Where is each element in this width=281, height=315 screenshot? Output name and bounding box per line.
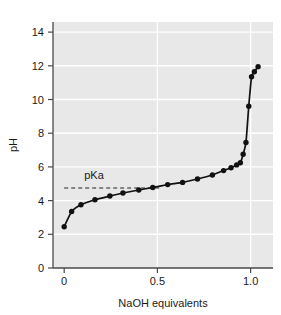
data-point-7 — [150, 185, 155, 190]
x-tick-label-0: 0 — [61, 275, 67, 287]
data-point-4 — [107, 193, 112, 198]
data-point-0 — [61, 224, 66, 229]
y-axis-title: pH — [7, 138, 19, 152]
plot-area-background — [53, 22, 273, 268]
data-point-10 — [195, 176, 200, 181]
data-point-11 — [210, 172, 215, 177]
data-point-9 — [180, 180, 185, 185]
data-point-12 — [221, 168, 226, 173]
data-point-17 — [243, 140, 248, 145]
data-point-18 — [246, 104, 251, 109]
data-point-8 — [165, 182, 170, 187]
y-tick-label-4: 8 — [38, 127, 44, 139]
y-tick-label-3: 6 — [38, 161, 44, 173]
pka-label: pKa — [84, 169, 104, 181]
y-tick-label-0: 0 — [38, 262, 44, 274]
data-point-2 — [78, 202, 83, 207]
x-axis-title: NaOH equivalents — [118, 297, 208, 309]
titration-chart-figure: 02468101214 00.51.0 pKa NaOH equivalents… — [0, 0, 281, 315]
data-point-1 — [69, 209, 74, 214]
data-point-16 — [240, 152, 245, 157]
data-point-5 — [120, 190, 125, 195]
y-tick-label-6: 12 — [32, 60, 44, 72]
y-tick-label-1: 2 — [38, 228, 44, 240]
x-tick-label-1: 0.5 — [150, 275, 165, 287]
data-point-13 — [228, 165, 233, 170]
x-tick-label-2: 1.0 — [243, 275, 258, 287]
y-tick-label-2: 4 — [38, 195, 44, 207]
data-point-20 — [252, 69, 257, 74]
data-point-6 — [136, 187, 141, 192]
chart-canvas: 02468101214 00.51.0 pKa NaOH equivalents… — [0, 0, 281, 315]
data-point-21 — [255, 64, 260, 69]
data-point-3 — [92, 197, 97, 202]
y-tick-label-7: 14 — [32, 26, 44, 38]
data-point-15 — [238, 160, 243, 165]
data-point-19 — [249, 74, 254, 79]
y-tick-label-5: 10 — [32, 94, 44, 106]
